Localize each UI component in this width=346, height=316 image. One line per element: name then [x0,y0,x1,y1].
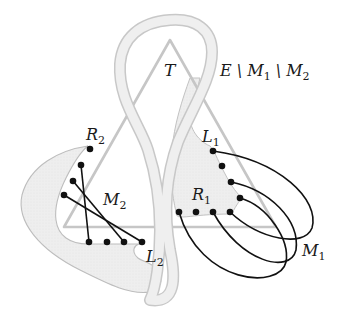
left-region [21,146,161,293]
label-T: T [164,60,177,80]
label-M2: M2 [102,190,126,212]
graph-diagram: T E \ M1 \ M2 R2 L1 M2 R1 L2 M1 [0,0,346,316]
diagram-canvas: T E \ M1 \ M2 R2 L1 M2 R1 L2 M1 [0,0,346,316]
label-L1: L1 [201,127,220,149]
label-M1: M1 [301,241,325,263]
label-R2: R2 [85,125,105,147]
label-E-minus-M1-M2: E \ M1 \ M2 [219,61,310,83]
